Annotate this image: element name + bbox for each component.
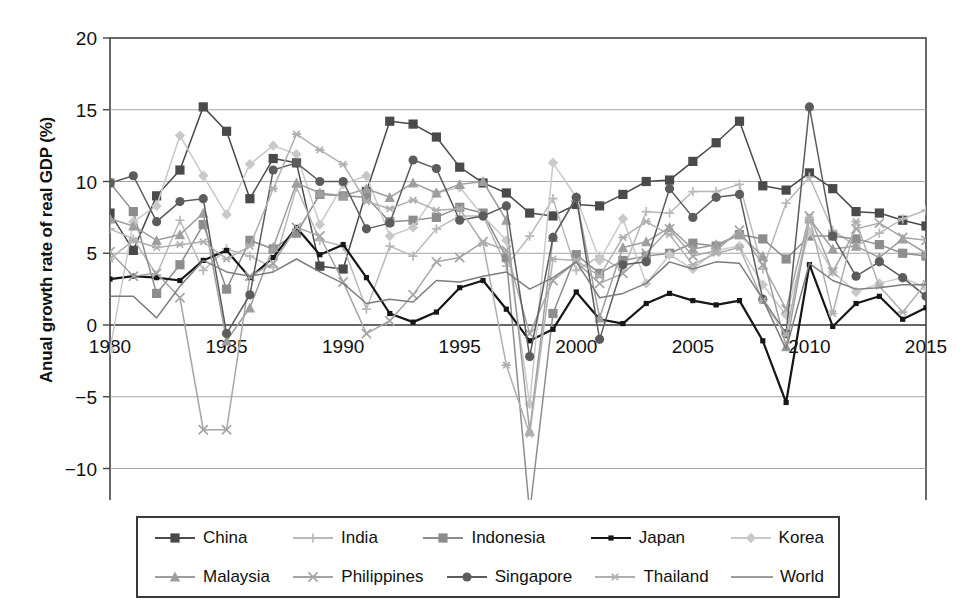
data-point: [175, 260, 184, 269]
data-point: [432, 213, 441, 222]
legend-item-malaysia[interactable]: Malaysia: [152, 567, 270, 587]
data-point: [898, 249, 907, 258]
data-point: [735, 190, 744, 199]
legend-x-icon: [290, 569, 336, 585]
data-point: [642, 177, 651, 186]
data-point: [175, 165, 184, 174]
y-tick-label: 0: [86, 315, 97, 336]
data-point: [572, 193, 581, 202]
data-point: [548, 309, 557, 318]
data-point: [455, 163, 464, 172]
data-point: [828, 231, 837, 240]
data-point: [385, 117, 394, 126]
data-point: [853, 301, 858, 306]
legend-line-icon: [729, 569, 775, 585]
x-tick-label: 2005: [672, 336, 714, 357]
data-point: [152, 217, 161, 226]
data-point: [432, 132, 441, 141]
data-point: [875, 240, 884, 249]
data-point: [315, 177, 324, 186]
data-point: [455, 203, 464, 212]
data-point: [504, 307, 509, 312]
data-point: [642, 257, 651, 266]
data-point: [921, 292, 930, 301]
data-point: [712, 193, 721, 202]
legend-triangle-icon: [152, 569, 198, 585]
data-point: [550, 327, 555, 332]
data-point: [921, 221, 930, 230]
data-point: [608, 535, 613, 540]
legend-circle-icon: [444, 569, 490, 585]
y-tick-label: −5: [75, 387, 97, 408]
legend-item-indonesia[interactable]: Indonesia: [420, 528, 545, 548]
data-point: [224, 248, 229, 253]
data-point: [611, 573, 620, 579]
data-point: [478, 211, 487, 220]
data-point: [782, 254, 791, 263]
data-point: [199, 194, 208, 203]
legend-label: Malaysia: [203, 567, 270, 587]
data-point: [222, 329, 231, 338]
data-point: [292, 158, 301, 167]
data-point: [525, 208, 534, 217]
data-point: [688, 157, 697, 166]
data-point: [665, 184, 674, 193]
legend-item-singapore[interactable]: Singapore: [444, 567, 573, 587]
data-point: [462, 572, 471, 581]
data-point: [408, 155, 417, 164]
y-tick-label: 15: [76, 100, 97, 121]
x-tick-label: 2015: [905, 336, 947, 357]
data-point: [339, 177, 348, 186]
y-tick-label: 5: [86, 243, 97, 264]
data-point: [745, 532, 755, 542]
data-point: [410, 320, 415, 325]
y-tick-label: −10: [65, 459, 97, 480]
data-point: [548, 211, 557, 220]
data-point: [222, 127, 231, 136]
legend-row-1: ChinaIndiaIndonesiaJapanKorea: [138, 518, 838, 557]
x-tick-label: 1990: [322, 336, 364, 357]
data-point: [129, 246, 138, 255]
legend-item-thailand[interactable]: Thailand: [592, 567, 708, 587]
data-point: [900, 317, 905, 322]
data-point: [408, 120, 417, 129]
legend-label: China: [203, 528, 247, 548]
data-point: [339, 264, 348, 273]
data-point: [269, 165, 278, 174]
data-point: [432, 164, 441, 173]
data-point: [618, 190, 627, 199]
data-point: [308, 533, 317, 542]
data-point: [385, 219, 394, 228]
legend-item-china[interactable]: China: [152, 528, 247, 548]
data-point: [364, 275, 369, 280]
data-point: [548, 233, 557, 242]
legend-item-korea[interactable]: Korea: [728, 528, 824, 548]
legend-label: Singapore: [495, 567, 573, 587]
legend-item-world[interactable]: World: [729, 567, 824, 587]
legend-label: Korea: [779, 528, 824, 548]
data-point: [735, 117, 744, 126]
data-point: [269, 154, 278, 163]
legend-item-japan[interactable]: Japan: [588, 528, 685, 548]
data-point: [782, 186, 791, 195]
data-point: [805, 102, 814, 111]
legend-label: Indonesia: [471, 528, 545, 548]
data-point: [199, 102, 208, 111]
legend-item-philippines[interactable]: Philippines: [290, 567, 423, 587]
data-point: [387, 311, 392, 316]
legend-label: World: [780, 567, 824, 587]
data-point: [502, 201, 511, 210]
data-point: [877, 294, 882, 299]
legend-item-india[interactable]: India: [290, 528, 378, 548]
data-point: [758, 181, 767, 190]
data-point: [595, 201, 604, 210]
legend-label: Philippines: [341, 567, 423, 587]
data-point: [245, 290, 254, 299]
data-point: [875, 257, 884, 266]
data-point: [362, 224, 371, 233]
legend-row-2: MalaysiaPhilippinesSingaporeThailandWorl…: [138, 557, 838, 596]
data-point: [690, 298, 695, 303]
legend-diamond-icon: [728, 530, 774, 546]
y-tick-label: 20: [76, 28, 97, 49]
legend-asterisk-icon: [592, 569, 638, 585]
